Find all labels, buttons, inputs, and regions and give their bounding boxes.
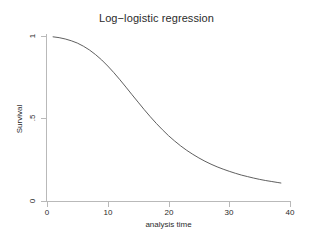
survival-curve-svg: [0, 0, 313, 247]
survival-curve-line: [53, 37, 281, 183]
chart-figure: Log−logistic regression 1 .5 0 0 10 20 3…: [0, 0, 313, 247]
